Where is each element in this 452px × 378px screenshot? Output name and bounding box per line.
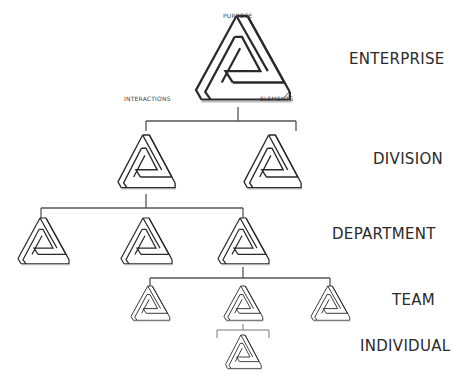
team-triangle-icon — [224, 286, 264, 321]
department-triangle-icon — [218, 218, 270, 265]
individual-triangle-icon — [226, 335, 262, 369]
team-triangle-icon — [311, 286, 351, 321]
division-triangle-icon — [118, 135, 176, 189]
corner-label-interactions: INTERACTIONS — [124, 95, 171, 102]
connector-enterprise-division — [146, 107, 296, 131]
level-label-enterprise: ENTERPRISE — [349, 50, 445, 68]
connector-team-individual — [217, 324, 269, 338]
corner-label-purpose: PURPOSE — [223, 12, 253, 19]
level-label-division: DIVISION — [373, 150, 443, 168]
connector-division-department — [41, 194, 243, 218]
connector-department-team — [150, 267, 330, 286]
team-triangle-icon — [131, 286, 171, 321]
department-triangle-icon — [121, 218, 173, 265]
level-label-department: DEPARTMENT — [332, 225, 436, 243]
enterprise-triangle-icon — [196, 16, 292, 102]
level-label-individual: INDIVIDUAL — [360, 337, 450, 355]
division-triangle-icon — [244, 135, 302, 189]
department-triangle-icon — [18, 218, 70, 265]
level-label-team: TEAM — [392, 291, 435, 309]
corner-label-elements: ELEMENTS — [260, 95, 293, 102]
